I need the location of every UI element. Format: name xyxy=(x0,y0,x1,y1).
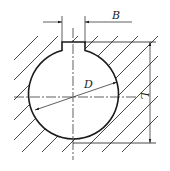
dimension-l: L xyxy=(138,42,151,143)
dimension-b-label: B xyxy=(111,9,120,22)
hatch-pattern xyxy=(14,34,158,152)
bore-outline xyxy=(29,42,119,139)
dimension-l-label: L xyxy=(138,91,151,99)
dimension-d: D xyxy=(35,78,117,110)
keyway-diagram: B D L xyxy=(0,0,170,171)
dimension-d-label: D xyxy=(83,78,93,91)
